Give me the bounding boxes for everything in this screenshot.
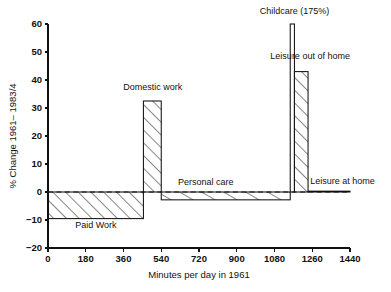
figure-root: −20−100102030405060018036054072090010801… <box>0 0 391 292</box>
x-tick-label: 180 <box>78 253 94 264</box>
x-tick-label: 0 <box>45 253 50 264</box>
bar-label-childcare: Childcare (175%) <box>260 6 330 16</box>
bar-label-personal-care: Personal care <box>178 177 234 187</box>
y-tick-label: 20 <box>31 130 42 141</box>
x-tick-label: 360 <box>116 253 132 264</box>
x-tick-label: 1440 <box>339 253 360 264</box>
bar-childcare[interactable] <box>290 24 294 192</box>
y-tick-label: 0 <box>37 186 42 197</box>
bar-leisure-out-of-home[interactable] <box>294 72 308 192</box>
y-tick-label: 40 <box>31 74 42 85</box>
bar-label-leisure-out-of-home: Leisure out of home <box>270 51 350 61</box>
y-tick-label: 60 <box>31 18 42 29</box>
x-tick-label: 900 <box>229 253 245 264</box>
bar-label-leisure-at-home: Leisure at home <box>310 176 375 186</box>
y-tick-label: 50 <box>31 46 42 57</box>
bar-chart: −20−100102030405060018036054072090010801… <box>0 0 391 292</box>
x-tick-label: 1260 <box>302 253 323 264</box>
bar-domestic-work[interactable] <box>143 101 161 192</box>
x-tick-label: 1080 <box>264 253 285 264</box>
y-tick-label: 10 <box>31 158 42 169</box>
y-tick-label: −10 <box>26 214 42 225</box>
y-tick-label: 30 <box>31 102 42 113</box>
bar-label-paid-work: Paid Work <box>75 220 117 230</box>
x-tick-label: 540 <box>153 253 169 264</box>
bar-personal-care[interactable] <box>161 192 290 200</box>
x-axis-title: Minutes per day in 1961 <box>148 269 249 280</box>
x-tick-label: 720 <box>191 253 207 264</box>
bar-paid-work[interactable] <box>48 192 143 219</box>
labels-layer: −20−100102030405060018036054072090010801… <box>7 6 375 280</box>
y-tick-label: −20 <box>26 242 42 253</box>
y-axis-title: % Change 1961– 1983/4 <box>7 83 18 188</box>
bar-label-domestic-work: Domestic work <box>123 82 183 92</box>
